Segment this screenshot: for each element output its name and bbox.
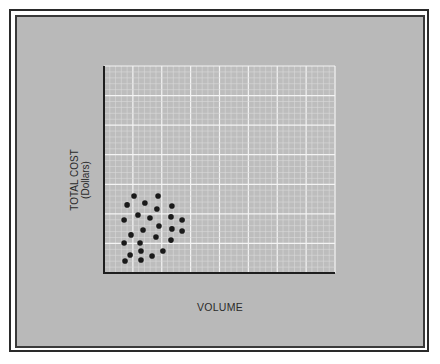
data-point bbox=[160, 248, 166, 254]
data-point bbox=[156, 223, 162, 229]
data-point bbox=[147, 215, 153, 221]
data-point bbox=[168, 237, 174, 243]
data-point bbox=[138, 257, 144, 263]
data-point bbox=[131, 193, 137, 199]
data-point bbox=[121, 217, 127, 223]
x-axis-label: VOLUME bbox=[197, 301, 243, 313]
y-axis-title: TOTAL COST bbox=[69, 149, 80, 211]
data-point bbox=[142, 200, 148, 206]
data-point bbox=[169, 226, 175, 232]
data-point bbox=[168, 214, 174, 220]
data-point bbox=[127, 252, 133, 258]
data-point bbox=[155, 193, 161, 199]
data-point bbox=[138, 248, 144, 254]
data-point bbox=[137, 240, 143, 246]
data-point bbox=[122, 258, 128, 264]
y-axis-label: TOTAL COST (Dollars) bbox=[69, 149, 91, 211]
data-point bbox=[179, 217, 185, 223]
data-point bbox=[124, 202, 130, 208]
data-point bbox=[169, 203, 175, 209]
data-point bbox=[154, 206, 160, 212]
data-point bbox=[140, 227, 146, 233]
y-axis-subtitle: (Dollars) bbox=[80, 149, 91, 211]
data-point bbox=[179, 228, 185, 234]
data-point bbox=[153, 234, 159, 240]
data-point bbox=[149, 253, 155, 259]
data-point bbox=[135, 212, 141, 218]
data-point bbox=[121, 240, 127, 246]
data-point bbox=[128, 232, 134, 238]
